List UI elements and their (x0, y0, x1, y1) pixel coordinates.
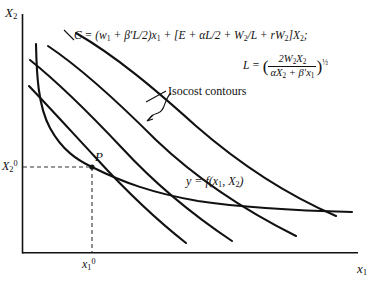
eq1-X: X (293, 29, 300, 41)
eq1-eq: = (82, 29, 96, 41)
isoquant-label-prefix: y = f( (186, 174, 213, 188)
isoquant-isocost-figure: X2 x1 X20 x10 P y = f(x1, X2) Isocost co… (0, 0, 379, 282)
eq1-over-l: /L (248, 29, 257, 41)
eq1-plus4: + (221, 29, 235, 41)
isocost-contours-label: Isocost contours (168, 85, 246, 97)
isoquant-label: y = f(x1, X2) (186, 175, 244, 189)
isocost-leader-arrowhead (147, 115, 153, 121)
eq2-eq: = (249, 59, 263, 71)
eq2-num-W: W (284, 53, 293, 64)
equation-leader-stroke (64, 30, 74, 40)
eq2-den-beta: β′ (299, 67, 307, 78)
eq1-W2: W (275, 29, 285, 41)
eq2-den-x-sub: 1 (311, 71, 315, 79)
axis-title-y: X2 (5, 6, 17, 21)
eq1-e: E (179, 29, 186, 41)
axis-title-y-sub: 2 (13, 11, 17, 21)
eq1-W: W (234, 29, 244, 41)
eq1-w: w (99, 29, 107, 41)
eq2-fraction: 2W2X2αX2 + β′x1 (268, 53, 316, 80)
eq1-plus3: + (186, 29, 200, 41)
guide-lines-group (23, 167, 92, 252)
tick-label-y-sup: 0 (13, 159, 17, 168)
tangency-point-marker (89, 164, 94, 169)
axis-title-x: x1 (357, 262, 367, 277)
eq1-l-over: L/2 (132, 29, 147, 41)
eq1-plus5: + (257, 29, 271, 41)
tick-label-y-x2-star: X20 (2, 160, 18, 174)
eq1-alpha-l: L/2 (205, 29, 220, 41)
eq2-num-X-sub: 2 (303, 58, 307, 66)
eq2-denominator: αX2 + β′x1 (268, 67, 316, 80)
point-label-p: P (95, 150, 103, 163)
eq2-exponent: ½ (322, 58, 328, 67)
labour-equation-line-2: L = (2W2X2αX2 + β′x1)½ (243, 53, 328, 80)
axis-title-x-sub: 1 (363, 267, 367, 277)
equation-leader-line (64, 30, 74, 40)
eq1-plus2: + [ (161, 29, 179, 41)
eq1-semi: ; (304, 29, 308, 41)
tick-label-x-x1-star: x10 (82, 258, 95, 272)
eq2-den-plus: + (286, 67, 298, 78)
isoquant-label-suffix: ) (240, 174, 244, 188)
cost-equation-line-1: C = (w1 + β′L/2)x1 + [E + αL/2 + W2/L + … (74, 30, 308, 43)
tick-label-x-sup: 0 (91, 257, 95, 266)
axis-title-y-base: X (5, 5, 13, 20)
eq1-lhs: C (74, 29, 82, 41)
eq1-plus1: + (111, 29, 125, 41)
isoquant-label-X: X (228, 174, 235, 188)
eq2-numerator: 2W2X2 (268, 53, 316, 67)
